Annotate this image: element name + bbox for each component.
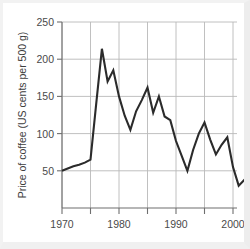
x-gridlines <box>62 22 233 208</box>
y-axis-title: Price of coffee (US cents per 500 g) <box>16 32 28 199</box>
y-tick-label-50: 50 <box>42 165 54 177</box>
y-tick-label-200: 200 <box>36 53 54 65</box>
x-tick-label-1980: 1980 <box>107 218 131 230</box>
x-tick-label-1990: 1990 <box>164 218 188 230</box>
coffee-price-chart-figure: 250 200 150 100 50 1970 1980 1990 2000 P… <box>0 0 250 249</box>
x-tick-label-2000: 2000 <box>221 218 245 230</box>
y-tick-label-150: 150 <box>36 90 54 102</box>
x-tickmarks <box>62 208 233 214</box>
x-tick-label-1970: 1970 <box>50 218 74 230</box>
y-tick-label-250: 250 <box>36 16 54 28</box>
chart-plot-svg: 250 200 150 100 50 1970 1980 1990 2000 P… <box>0 0 250 249</box>
y-tick-label-100: 100 <box>36 128 54 140</box>
y-tickmarks <box>57 22 62 171</box>
